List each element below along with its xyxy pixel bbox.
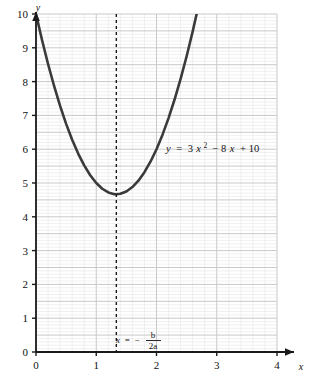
x-tick-label: 4 <box>274 359 280 371</box>
y-tick-label: 5 <box>23 177 29 189</box>
x-tick-label: 2 <box>154 359 160 371</box>
equation-lhs: y <box>165 143 171 154</box>
vertex-denominator: 2a <box>149 341 158 351</box>
equation-term3: + 10 <box>240 143 259 154</box>
y-tick-label: 2 <box>23 278 29 290</box>
major-gridlines <box>36 14 277 352</box>
y-tick-label: 8 <box>23 76 29 88</box>
y-tick-label: 1 <box>23 312 29 324</box>
vertex-numerator: b <box>151 330 156 340</box>
x-tick-label: 1 <box>94 359 100 371</box>
vertex-equals: = <box>125 335 130 345</box>
equation-term1-var: x <box>195 143 201 154</box>
vertex-formula-line: x = − <box>115 335 140 345</box>
vertex-lhs: x <box>115 335 120 345</box>
equation-term2: − 8 <box>212 143 226 154</box>
graph-figure: 01234 012345678910 y x y = 3 x 2 − 8 x +… <box>0 0 313 384</box>
y-tick-label: 7 <box>23 109 29 121</box>
y-tick-label: 10 <box>17 8 29 20</box>
equation-term1-exponent: 2 <box>204 141 208 150</box>
x-tick-label: 0 <box>33 359 39 371</box>
x-tick-label: 3 <box>214 359 220 371</box>
y-axis-label: y <box>35 2 41 13</box>
equation-term2-var: x <box>229 143 235 154</box>
y-tick-label: 3 <box>23 245 29 257</box>
y-tick-label: 9 <box>23 42 29 54</box>
coordinate-plane: 01234 012345678910 y x y = 3 x 2 − 8 x +… <box>0 0 313 384</box>
equation-equals: = <box>176 143 182 154</box>
x-axis-label: x <box>298 361 304 372</box>
vertex-minus: − <box>135 335 140 345</box>
y-tick-label: 4 <box>23 211 29 223</box>
y-tick-label: 0 <box>23 346 29 358</box>
y-tick-label: 6 <box>23 143 29 155</box>
equation-term1-coef: 3 <box>188 143 193 154</box>
